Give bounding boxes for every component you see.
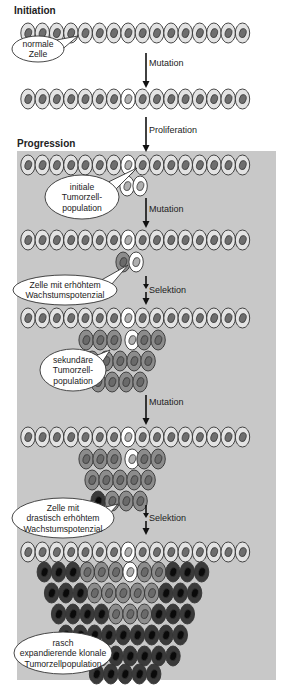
step-label-mutation-1: Mutation bbox=[149, 58, 184, 68]
aggressive-tumor-cell bbox=[152, 646, 166, 666]
normal-cell bbox=[178, 427, 192, 447]
normal-cell bbox=[150, 542, 164, 562]
normal-cell bbox=[78, 542, 92, 562]
normal-cell bbox=[207, 427, 221, 447]
secondary-tumor-cell bbox=[151, 449, 165, 469]
secondary-tumor-cell bbox=[137, 330, 151, 350]
normal-cell bbox=[135, 308, 149, 328]
step-label-selektion-1: Selektion bbox=[149, 285, 186, 295]
callout-text-line: Tumorzell- bbox=[62, 192, 102, 202]
aggressive-tumor-cell bbox=[145, 625, 159, 645]
normal-cell bbox=[150, 427, 164, 447]
normal-cell bbox=[21, 89, 35, 109]
normal-cell bbox=[235, 89, 249, 109]
normal-cell bbox=[35, 230, 49, 250]
tumor-progression-diagram: normaleZelleinitialeTumorzell-population… bbox=[0, 0, 284, 689]
secondary-tumor-cell bbox=[107, 330, 121, 350]
aggressive-tumor-cell bbox=[116, 625, 130, 645]
aggressive-tumor-cell bbox=[137, 646, 151, 666]
normal-cell bbox=[221, 542, 235, 562]
normal-cell bbox=[78, 230, 92, 250]
normal-cell bbox=[164, 230, 178, 250]
aggressive-tumor-cell bbox=[123, 646, 137, 666]
aggressive-tumor-cell bbox=[51, 562, 65, 582]
callout-text-line: Wachstumspotenzial bbox=[24, 524, 103, 534]
step-label-selektion-2: Selektion bbox=[149, 513, 186, 523]
secondary-tumor-cell bbox=[137, 562, 151, 582]
normal-cell bbox=[107, 89, 121, 109]
secondary-tumor-cell bbox=[99, 470, 113, 490]
normal-cell bbox=[235, 23, 249, 43]
section-title-progression: Progression bbox=[17, 138, 75, 149]
normal-cell bbox=[164, 427, 178, 447]
normal-cell bbox=[164, 23, 178, 43]
arrow-proliferation-head bbox=[143, 145, 150, 152]
normal-cell bbox=[178, 308, 192, 328]
callout-text-line: drastisch erhöhtem bbox=[26, 513, 99, 523]
secondary-tumor-cell bbox=[152, 562, 166, 582]
normal-cell bbox=[178, 230, 192, 250]
initial-tumor-cell bbox=[121, 230, 135, 250]
secondary-tumor-cell bbox=[109, 604, 123, 624]
normal-cell bbox=[121, 23, 135, 43]
normal-cell bbox=[92, 23, 106, 43]
normal-cell bbox=[235, 427, 249, 447]
secondary-tumor-cell bbox=[145, 583, 159, 603]
normal-cell bbox=[107, 308, 121, 328]
normal-cell bbox=[178, 89, 192, 109]
secondary-tumor-cell bbox=[109, 562, 123, 582]
normal-cell bbox=[107, 427, 121, 447]
normal-cell bbox=[64, 155, 78, 175]
step-label-proliferation: Proliferation bbox=[149, 125, 197, 135]
aggressive-tumor-cell bbox=[94, 604, 108, 624]
secondary-tumor-cell bbox=[79, 330, 93, 350]
normal-cell bbox=[49, 427, 63, 447]
normal-cell bbox=[21, 427, 35, 447]
normal-cell bbox=[150, 89, 164, 109]
normal-cell bbox=[35, 427, 49, 447]
aggressive-tumor-cell bbox=[132, 664, 146, 684]
normal-cell bbox=[135, 155, 149, 175]
normal-cell bbox=[221, 155, 235, 175]
normal-cell bbox=[178, 542, 192, 562]
normal-cell bbox=[92, 308, 106, 328]
aggressive-tumor-cell bbox=[159, 625, 173, 645]
aggressive-tumor-cell bbox=[80, 604, 94, 624]
normal-cell bbox=[192, 23, 206, 43]
initial-tumor-cell bbox=[121, 542, 135, 562]
normal-cell bbox=[107, 230, 121, 250]
secondary-tumor-cell bbox=[151, 330, 165, 350]
normal-cell bbox=[49, 89, 63, 109]
normal-cell bbox=[21, 542, 35, 562]
secondary-tumor-cell bbox=[127, 351, 141, 371]
secondary-tumor-cell bbox=[113, 351, 127, 371]
callout-text-line: Tumorzell- bbox=[53, 365, 93, 375]
normal-cell bbox=[92, 155, 106, 175]
normal-cell bbox=[78, 89, 92, 109]
callout-text-line: sekundäre bbox=[53, 355, 93, 365]
normal-cell bbox=[135, 542, 149, 562]
normal-cell bbox=[78, 155, 92, 175]
secondary-tumor-cell bbox=[80, 562, 94, 582]
secondary-tumor-cell bbox=[102, 583, 116, 603]
normal-cell bbox=[192, 427, 206, 447]
normal-cell bbox=[221, 308, 235, 328]
normal-cell bbox=[64, 230, 78, 250]
aggressive-tumor-cell bbox=[66, 562, 80, 582]
secondary-tumor-cell bbox=[93, 330, 107, 350]
normal-cell bbox=[150, 308, 164, 328]
secondary-tumor-cell bbox=[107, 449, 121, 469]
callout-text-line: Wachstumspotenzial bbox=[26, 290, 105, 300]
normal-cell bbox=[35, 89, 49, 109]
normal-cell bbox=[235, 542, 249, 562]
normal-cell bbox=[64, 308, 78, 328]
aggressive-tumor-cell bbox=[147, 664, 161, 684]
secondary-tumor-cell bbox=[137, 604, 151, 624]
callout-text-line: initiale bbox=[70, 182, 95, 192]
callout-text-line: rasch bbox=[52, 638, 73, 648]
normal-cell bbox=[107, 155, 121, 175]
normal-cell bbox=[221, 23, 235, 43]
normal-cell bbox=[221, 230, 235, 250]
callout-normal-cell: normaleZelle bbox=[12, 36, 78, 62]
normal-cell bbox=[64, 89, 78, 109]
